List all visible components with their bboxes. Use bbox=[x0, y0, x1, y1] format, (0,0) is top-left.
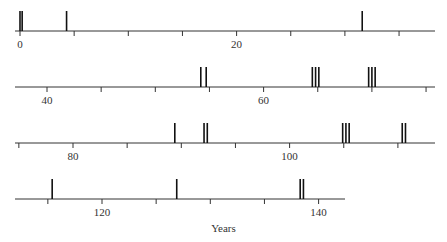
timeline-row-2: 4060 bbox=[15, 67, 435, 106]
tick-label: 80 bbox=[68, 150, 80, 162]
tick-label: 100 bbox=[281, 150, 298, 162]
timeline-row-1: 020 bbox=[15, 11, 435, 50]
timeline-chart: 020406080100120140 bbox=[0, 0, 447, 242]
tick-label: 60 bbox=[258, 94, 270, 106]
tick-label: 20 bbox=[231, 38, 243, 50]
timeline-row-4: 120140 bbox=[15, 179, 345, 218]
tick-label: 140 bbox=[310, 206, 327, 218]
timeline-row-3: 80100 bbox=[15, 123, 435, 162]
tick-label: 40 bbox=[42, 94, 54, 106]
tick-label: 120 bbox=[94, 206, 111, 218]
tick-label: 0 bbox=[17, 38, 23, 50]
x-axis-label: Years bbox=[0, 222, 447, 234]
